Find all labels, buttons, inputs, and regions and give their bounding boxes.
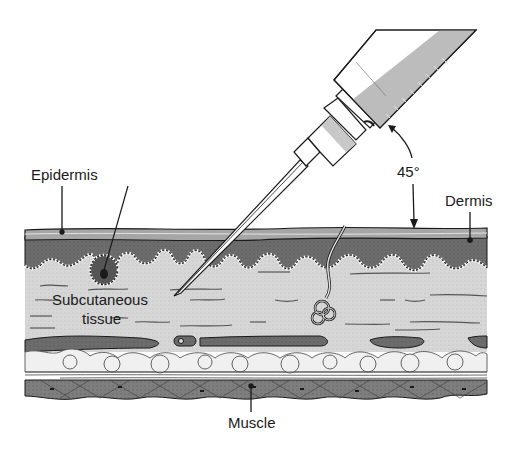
label-subcutaneous: Subcutaneous xyxy=(52,291,148,308)
label-epidermis: Epidermis xyxy=(31,166,98,183)
injection-diagram: Epidermis 45° Dermis Subcutaneous tissue… xyxy=(0,0,515,449)
fascia xyxy=(25,372,487,378)
fat-lobules xyxy=(25,349,487,373)
label-dermis: Dermis xyxy=(445,192,493,209)
label-angle: 45° xyxy=(397,163,420,180)
label-tissue: tissue xyxy=(82,310,121,327)
label-muscle: Muscle xyxy=(228,414,276,431)
